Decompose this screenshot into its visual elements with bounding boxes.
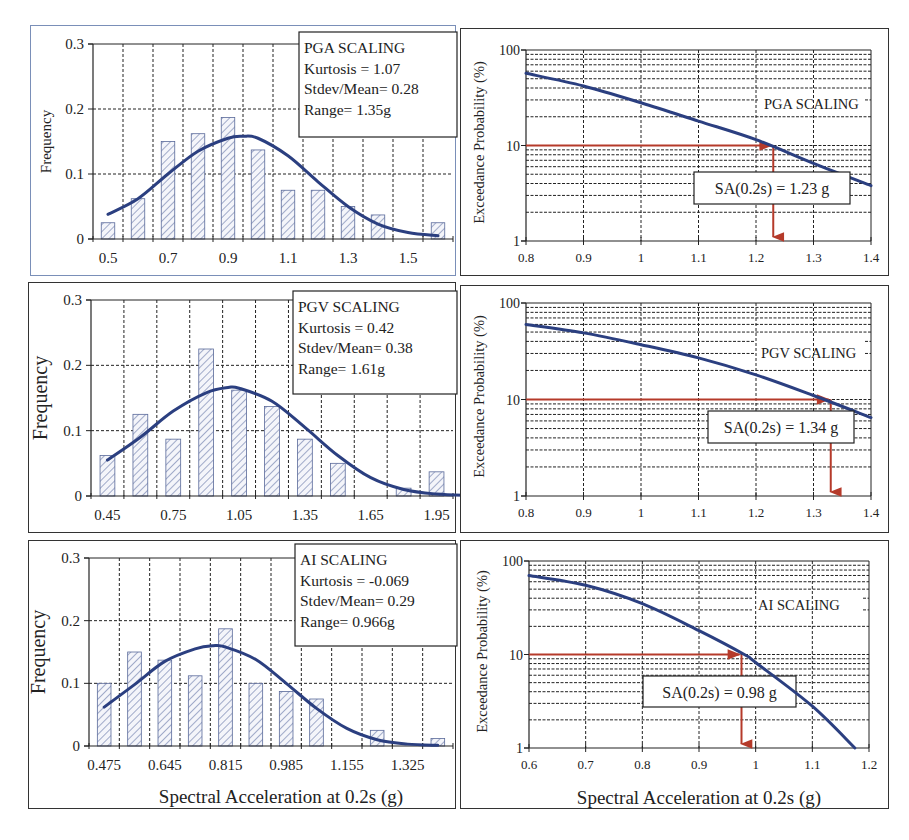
histogram-bar [199,349,214,496]
x-tick-label: 0.5 [99,250,118,266]
y-tick-label: 0.1 [61,675,80,691]
histogram-bar [97,683,111,746]
y-tick-label: 0 [75,488,83,504]
panel-pga-histogram: 00.10.20.30.50.70.91.11.31.5FrequencyPGA… [30,25,456,276]
x-tick-label: 0.75 [160,507,186,523]
stats-line: Stdev/Mean= 0.29 [300,592,415,609]
panel-pgv-histogram: 00.10.20.30.450.751.051.351.651.95Freque… [28,282,456,533]
y-tick-label: 100 [502,554,523,569]
y-tick-label: 1 [513,234,520,249]
stats-line: Kurtosis = 1.07 [304,60,400,77]
y-tick-label: 0.3 [65,36,84,52]
histogram-bar [281,190,295,239]
x-tick-label: 1.2 [861,757,877,772]
panel-ai-hazard: 0.60.70.80.911.11.2110100Exceedance Prob… [460,540,889,809]
x-tick-label: 0.815 [209,757,243,773]
x-tick-label: 1.65 [358,507,384,523]
sa-value-label: SA(0.2s) = 0.98 g [662,684,776,702]
chart-pgv-histogram: 00.10.20.30.450.751.051.351.651.95Freque… [29,283,457,534]
x-tick-label: 0.9 [691,757,707,772]
x-tick-label: 1 [752,757,759,772]
histogram-bar [131,199,145,239]
x-tick-label: 1.325 [391,757,425,773]
panel-pgv-hazard: 0.80.911.11.21.31.4110100Exceedance Prob… [460,285,889,533]
x-tick-label: 0.6 [521,757,538,772]
x-tick-label: 1.1 [690,250,706,265]
x-axis-label: Spectral Acceleration at 0.2s (g) [577,787,821,809]
y-axis-label: Exceedance Probability (%) [474,570,491,733]
x-tick-label: 1.155 [330,757,364,773]
x-tick-label: 1.3 [805,505,821,520]
stats-title: AI SCALING [300,551,387,568]
chart-pga-hazard: 0.80.911.11.21.31.4110100Exceedance Prob… [461,29,890,277]
x-tick-label: 0.7 [159,250,178,266]
x-tick-label: 1 [638,250,645,265]
x-tick-label: 1.95 [423,507,449,523]
x-tick-label: 1.35 [292,507,318,523]
stats-line: Kurtosis = 0.42 [298,319,394,336]
x-tick-label: 0.645 [148,757,182,773]
chart-title: PGV SCALING [761,345,857,361]
y-tick-label: 0.1 [63,423,82,439]
x-tick-label: 0.9 [575,250,591,265]
x-tick-label: 0.8 [634,757,650,772]
x-tick-label: 1.1 [279,250,298,266]
sa-value-label: SA(0.2s) = 1.34 g [724,419,838,437]
stats-title: PGA SCALING [304,39,405,56]
y-axis-label: Frequency [38,109,54,173]
stats-line: Stdev/Mean= 0.38 [298,339,413,356]
y-tick-label: 10 [509,648,523,663]
y-tick-label: 0.2 [61,613,80,629]
stats-line: Range= 0.966g [300,613,395,630]
histogram-bar [161,142,175,240]
histogram-bar [311,190,325,239]
x-tick-label: 0.7 [578,757,595,772]
sa-value-label: SA(0.2s) = 1.23 g [715,180,829,198]
histogram-bar [133,414,148,496]
histogram-bar [101,223,115,239]
x-tick-label: 1.3 [805,250,821,265]
histogram-bar [265,406,280,496]
x-tick-label: 1.4 [863,505,880,520]
x-tick-label: 0.9 [219,250,238,266]
x-axis-label: Spectral Acceleration at 0.2s (g) [159,786,403,808]
chart-ai-hazard: 0.60.70.80.911.11.2110100Exceedance Prob… [461,541,890,810]
stats-title: PGV SCALING [298,298,400,315]
histogram-bar [330,463,345,496]
histogram-bar [251,150,265,239]
x-tick-label: 1.2 [748,505,764,520]
chart-pgv-hazard: 0.80.911.11.21.31.4110100Exceedance Prob… [461,286,890,534]
y-axis-label: Frequency [27,610,50,694]
x-tick-label: 1.1 [690,505,706,520]
y-tick-label: 10 [506,393,520,408]
histogram-bar [232,390,247,496]
histogram-bar [158,660,172,746]
panel-ai-histogram: 00.10.20.30.4750.6450.8150.9851.1551.325… [28,540,456,809]
y-axis-label: Frequency [29,356,52,440]
histogram-bar [128,652,142,746]
histogram-bar [298,439,313,496]
y-tick-label: 0.3 [61,550,80,566]
y-tick-label: 100 [499,43,520,58]
y-tick-label: 0.2 [63,357,82,373]
chart-ai-histogram: 00.10.20.30.4750.6450.8150.9851.1551.325… [29,541,457,810]
y-tick-label: 1 [516,741,523,756]
x-tick-label: 1.1 [804,757,820,772]
histogram-bar [166,439,181,496]
histogram-bar [279,691,293,746]
y-tick-label: 10 [506,139,520,154]
y-tick-label: 0.1 [65,166,84,182]
chart-title: AI SCALING [758,597,840,613]
x-tick-label: 0.8 [518,250,534,265]
y-tick-label: 1 [513,489,520,504]
x-tick-label: 1.4 [863,250,880,265]
y-tick-label: 0 [73,738,81,754]
y-axis-label: Exceedance Probability (%) [471,315,488,478]
x-tick-label: 1.2 [748,250,764,265]
x-tick-label: 0.475 [87,757,121,773]
x-tick-label: 1 [638,505,645,520]
y-tick-label: 0.3 [63,292,82,308]
y-tick-label: 0.2 [65,101,84,117]
y-tick-label: 0 [77,231,85,247]
chart-title: PGA SCALING [764,96,859,112]
